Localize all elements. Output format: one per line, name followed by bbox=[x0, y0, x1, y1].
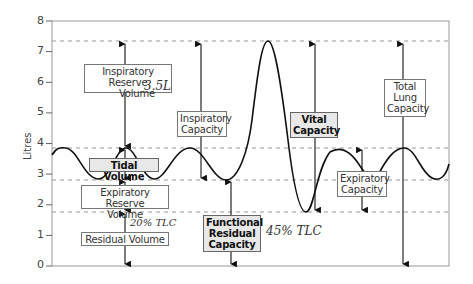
vc-line-1: Vital bbox=[293, 114, 335, 125]
frc-line-3: Capacity bbox=[206, 239, 258, 250]
label-vital-capacity: Vital Capacity bbox=[290, 112, 338, 138]
y-axis-label: Litres bbox=[22, 132, 33, 160]
y-tick-6: 6 bbox=[30, 75, 44, 88]
y-tick-2: 2 bbox=[30, 197, 44, 210]
label-functional-residual-capacity: Functional Residual Capacity bbox=[203, 215, 261, 252]
y-tick-1: 1 bbox=[30, 228, 44, 241]
handwritten-irv-note: 3.5L bbox=[144, 79, 171, 93]
handwritten-rv-note: 20% TLC bbox=[130, 217, 176, 228]
label-residual-volume: Residual Volume bbox=[81, 232, 169, 246]
label-expiratory-capacity: Expiratory Capacity bbox=[337, 171, 387, 197]
y-axis-ticks bbox=[46, 21, 52, 266]
handwritten-frc-note: 45% TLC bbox=[266, 224, 322, 238]
frc-line-1: Functional bbox=[206, 217, 258, 228]
tlc-line-2: Lung bbox=[387, 92, 423, 103]
y-tick-7: 7 bbox=[30, 44, 44, 57]
tv-text: Tidal Volume bbox=[104, 160, 145, 182]
y-tick-8: 8 bbox=[30, 14, 44, 27]
erv-line-1: Expiratory Reserve bbox=[84, 187, 166, 209]
vc-line-2: Capacity bbox=[293, 125, 335, 136]
ec-line-1: Expiratory bbox=[340, 173, 384, 184]
tlc-line-1: Total bbox=[387, 81, 423, 92]
ec-line-2: Capacity bbox=[340, 184, 384, 195]
label-total-lung-capacity: Total Lung Capacity bbox=[384, 79, 426, 117]
y-tick-5: 5 bbox=[30, 105, 44, 118]
tlc-line-3: Capacity bbox=[387, 103, 423, 114]
ic-line-2: Capacity bbox=[180, 124, 224, 135]
y-tick-3: 3 bbox=[30, 167, 44, 180]
y-tick-0: 0 bbox=[30, 258, 44, 271]
label-expiratory-reserve-volume: Expiratory Reserve Volume bbox=[81, 185, 169, 209]
label-tidal-volume: Tidal Volume bbox=[89, 158, 159, 172]
ic-line-1: Inspiratory bbox=[180, 113, 224, 124]
rv-text: Residual Volume bbox=[85, 234, 165, 245]
label-inspiratory-capacity: Inspiratory Capacity bbox=[177, 111, 227, 137]
frc-line-2: Residual bbox=[206, 228, 258, 239]
